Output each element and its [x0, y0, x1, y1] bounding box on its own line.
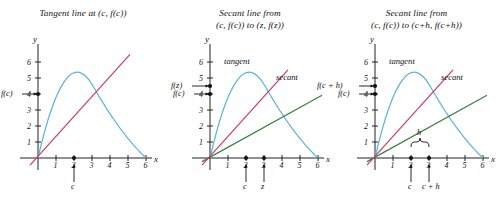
secant-line: [367, 95, 487, 161]
parabola-curve: [38, 72, 146, 158]
parabola-curve: [210, 72, 318, 158]
c-plus-h-arrow-head: [427, 164, 430, 168]
panel-tangent: Tangent line at (c, f(c)): [0, 0, 166, 203]
panel-secant-z: Secant line from (c, f(c)) to (z, f(z)): [166, 0, 334, 203]
panel-secant-h: Secant line from (c, f(c)) to (c+h, f(c+…: [334, 0, 499, 203]
point-on-x-axis-c: [409, 156, 413, 160]
secant-line: [202, 95, 322, 161]
c-arrow-head: [72, 164, 75, 168]
point-on-x-axis-z: [262, 156, 266, 160]
point-on-x-axis-c-plus-h: [427, 156, 431, 160]
calculus-figure: Tangent line at (c, f(c)): [0, 0, 499, 203]
tangent-line: [30, 54, 130, 165]
tangent-line: [202, 70, 288, 165]
h-brace: [411, 138, 429, 147]
panel-3-plot: [334, 0, 499, 203]
z-arrow-head: [262, 164, 265, 168]
tangent-line: [367, 70, 453, 165]
panel-1-plot: [0, 0, 166, 203]
panel-2-plot: [166, 0, 334, 203]
c-arrow-head: [244, 164, 247, 168]
point-on-x-axis-c: [244, 156, 248, 160]
point-on-x-axis-c: [72, 156, 76, 160]
c-arrow-head: [409, 164, 412, 168]
